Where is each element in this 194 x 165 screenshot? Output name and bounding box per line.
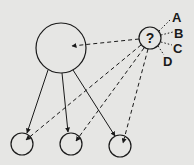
option-label-d: D	[163, 54, 172, 69]
child-node-3	[109, 135, 131, 157]
solid-arrow-child-2	[62, 73, 68, 132]
solid-arrow-child-1	[27, 70, 48, 133]
dashed-arrow-child-2	[76, 48, 144, 141]
dashed-arrow-parent	[72, 39, 139, 46]
child-node-2	[60, 133, 82, 155]
option-label-b: B	[174, 26, 183, 41]
diagram-canvas: ? A B C D	[0, 0, 194, 165]
option-label-c: C	[173, 41, 183, 56]
dotted-line-a	[159, 20, 170, 31]
option-label-a: A	[172, 10, 182, 25]
dotted-line-c	[161, 42, 172, 45]
dashed-arrow-child-3	[123, 49, 148, 143]
dotted-line-b	[161, 32, 173, 35]
solid-arrow-child-3	[73, 70, 115, 136]
parent-node	[36, 23, 86, 73]
question-label: ?	[146, 30, 155, 46]
